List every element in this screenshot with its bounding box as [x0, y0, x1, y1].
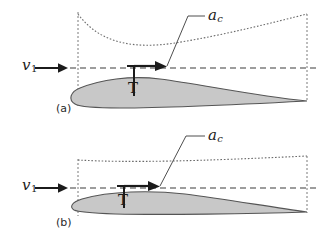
inflow-velocity-arrow	[35, 63, 68, 73]
thickness-label: T	[128, 81, 138, 96]
panel-a-caption: (a)	[56, 103, 71, 114]
inflow-velocity-label: v1	[22, 58, 37, 74]
camber-label: ac	[208, 128, 223, 144]
panel-b-graphics	[0, 120, 324, 241]
camber-curve	[78, 156, 307, 161]
panel-a-graphics	[0, 0, 324, 121]
panel-a: v1 ac T (a)	[0, 0, 324, 121]
camber-arrow	[124, 181, 160, 191]
camber-leader-line	[167, 16, 205, 66]
camber-curve	[78, 14, 307, 45]
thickness-label: T	[118, 193, 128, 208]
airfoil-comparison-figure: v1 ac T (a)	[0, 0, 324, 241]
panel-b: v1 ac T (b)	[0, 120, 324, 241]
airfoil-section	[72, 192, 307, 215]
camber-label: ac	[208, 8, 223, 24]
camber-arrow	[134, 61, 167, 71]
airfoil-section	[71, 78, 307, 108]
panel-b-caption: (b)	[56, 217, 72, 228]
inflow-velocity-label: v1	[22, 178, 37, 194]
inflow-velocity-arrow	[35, 183, 68, 193]
